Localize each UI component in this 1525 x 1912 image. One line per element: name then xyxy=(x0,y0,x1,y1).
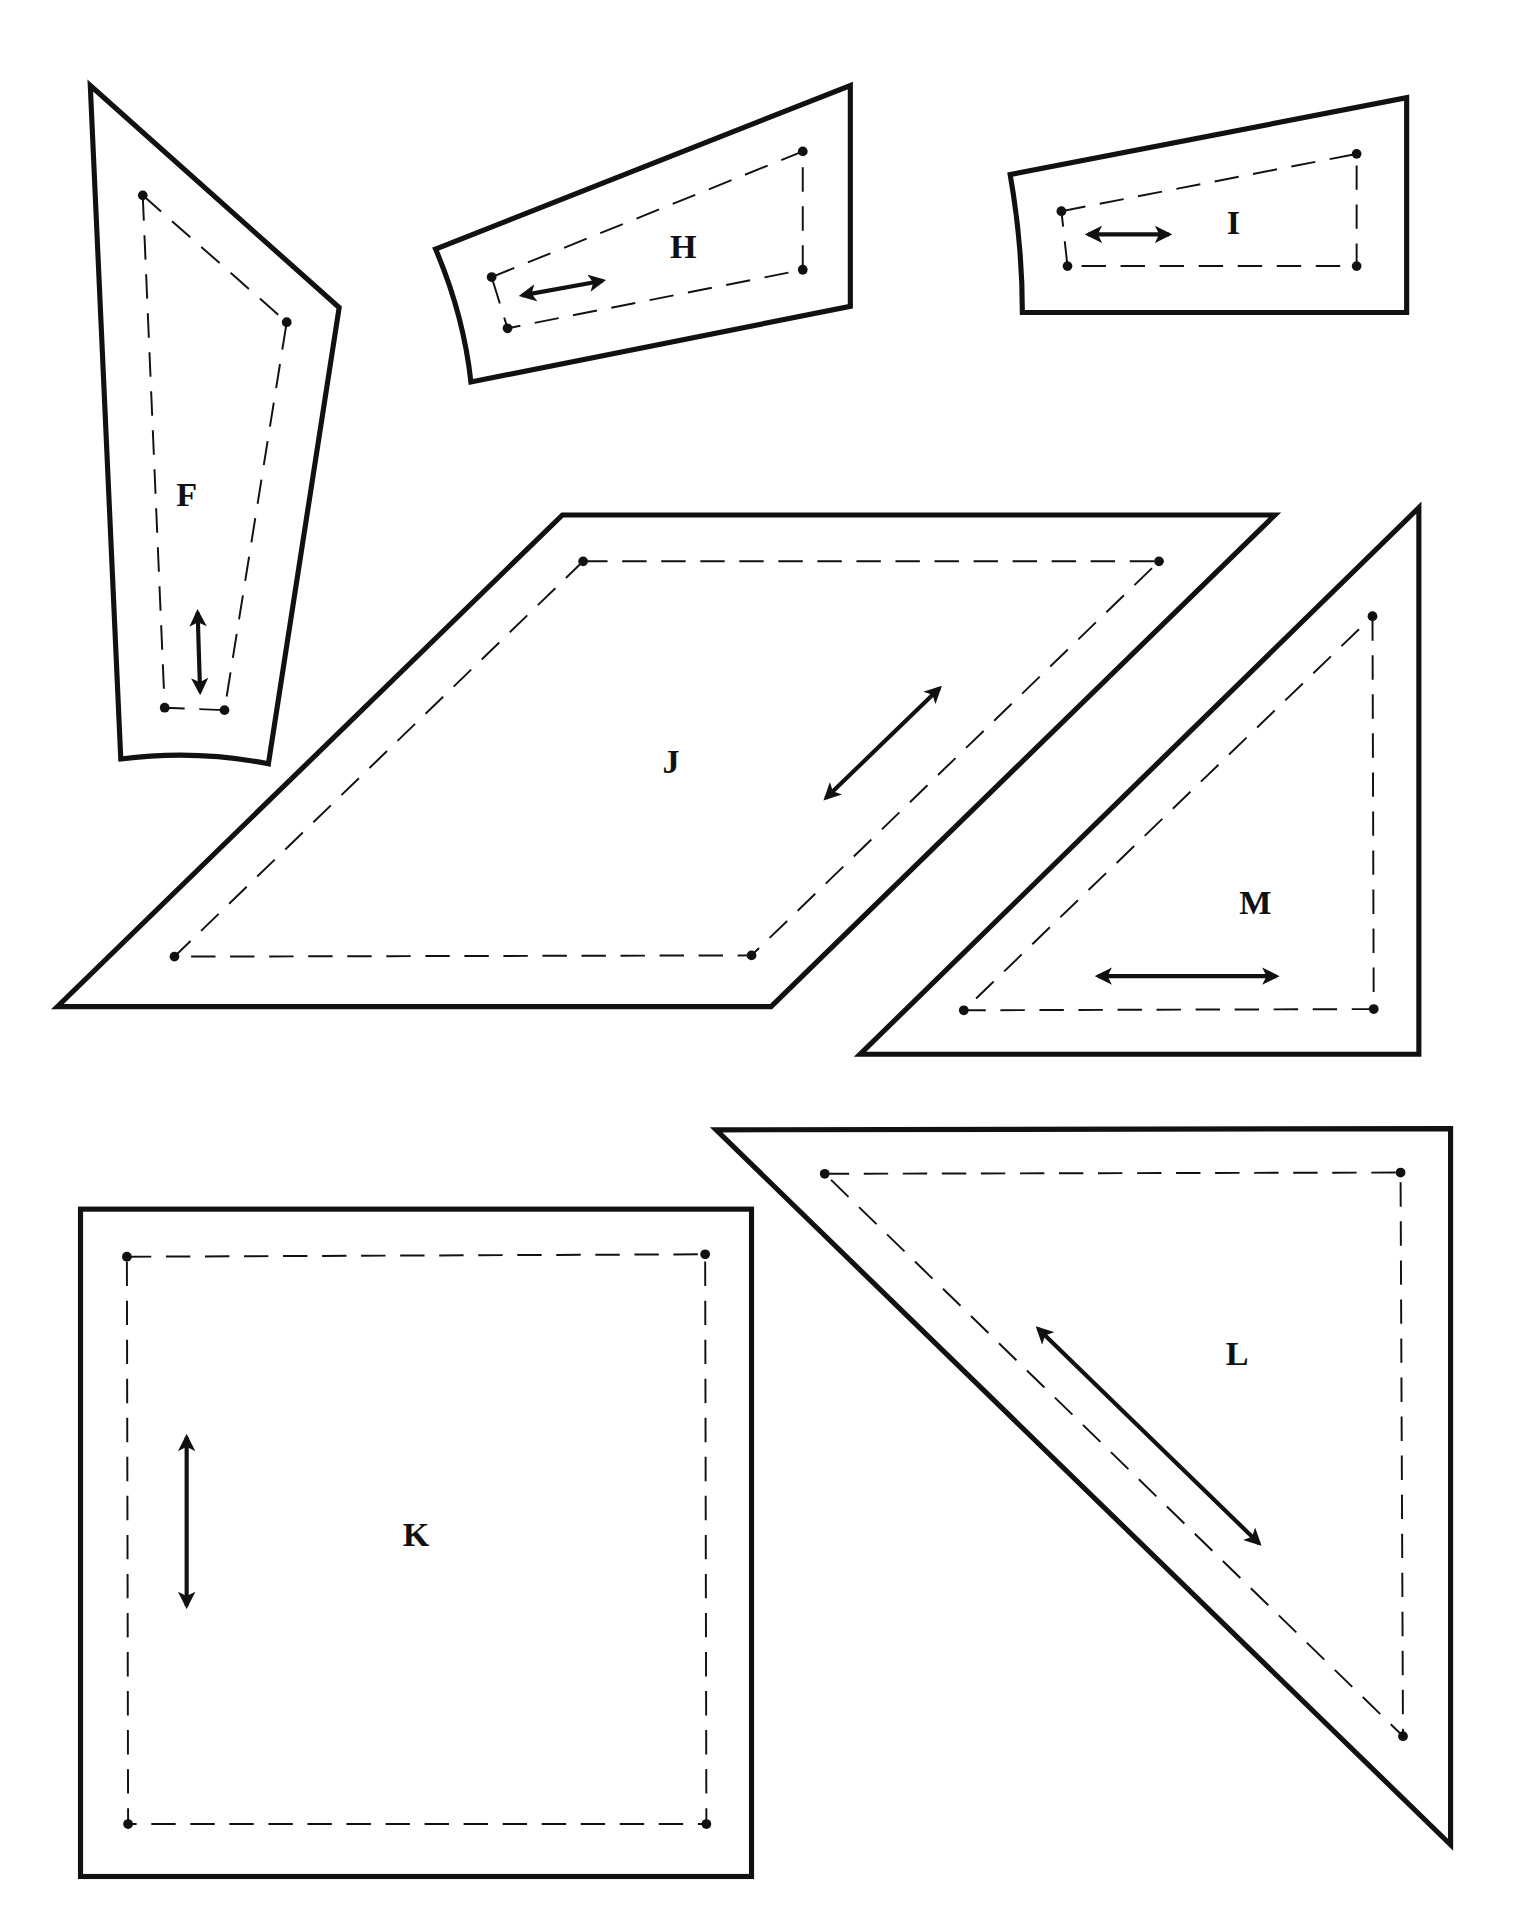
piece-f: F xyxy=(90,86,339,764)
piece-f-grainline-arrow xyxy=(198,613,200,692)
piece-f-cutting-line xyxy=(90,86,339,764)
piece-h: H xyxy=(436,86,851,382)
piece-i-label: I xyxy=(1227,204,1240,241)
piece-j-label: J xyxy=(662,743,679,780)
piece-f-label: F xyxy=(176,476,197,513)
piece-l-label: L xyxy=(1226,1335,1249,1372)
piece-k: K xyxy=(81,1209,752,1876)
piece-l: L xyxy=(716,1129,1450,1845)
piece-k-label: K xyxy=(403,1516,430,1553)
piece-m-label: M xyxy=(1239,884,1271,921)
piece-i: I xyxy=(1010,98,1407,313)
piece-h-label: H xyxy=(670,228,697,265)
pattern-sheet: F H I J xyxy=(0,0,1525,1912)
piece-i-cutting-line xyxy=(1010,98,1407,313)
piece-h-cutting-line xyxy=(436,86,851,382)
piece-l-cutting-line xyxy=(716,1129,1450,1845)
